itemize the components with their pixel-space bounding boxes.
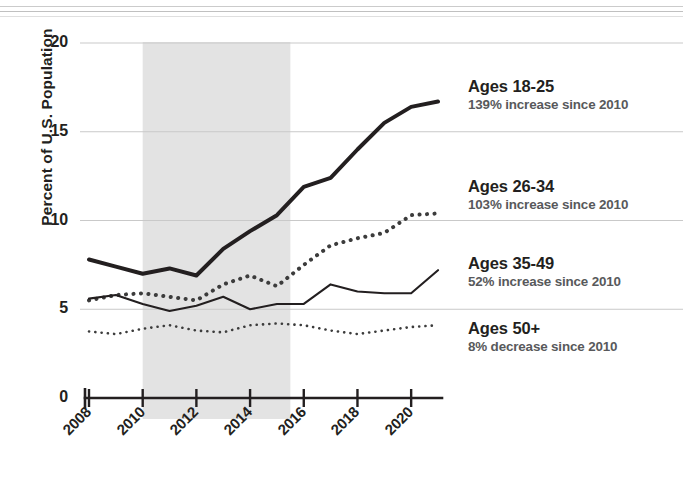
legend-item-3: Ages 35-4952% increase since 2010 [468, 255, 683, 289]
legend-item-caption: 103% increase since 2010 [468, 198, 683, 212]
legend-item-title: Ages 50+ [468, 320, 683, 337]
legend-item-title: Ages 18-25 [468, 78, 683, 95]
legend-item-caption: 139% increase since 2010 [468, 98, 683, 112]
legend-item-caption: 52% increase since 2010 [468, 275, 683, 289]
chart-figure: Percent of U.S. Population 05101520 2008… [0, 0, 683, 488]
chart-legend: Ages 18-25139% increase since 2010Ages 2… [0, 0, 683, 488]
legend-item-2: Ages 26-34103% increase since 2010 [468, 178, 683, 212]
legend-item-title: Ages 26-34 [468, 178, 683, 195]
legend-item-1: Ages 18-25139% increase since 2010 [468, 78, 683, 112]
legend-item-caption: 8% decrease since 2010 [468, 340, 683, 354]
legend-item-4: Ages 50+8% decrease since 2010 [468, 320, 683, 354]
legend-item-title: Ages 35-49 [468, 255, 683, 272]
